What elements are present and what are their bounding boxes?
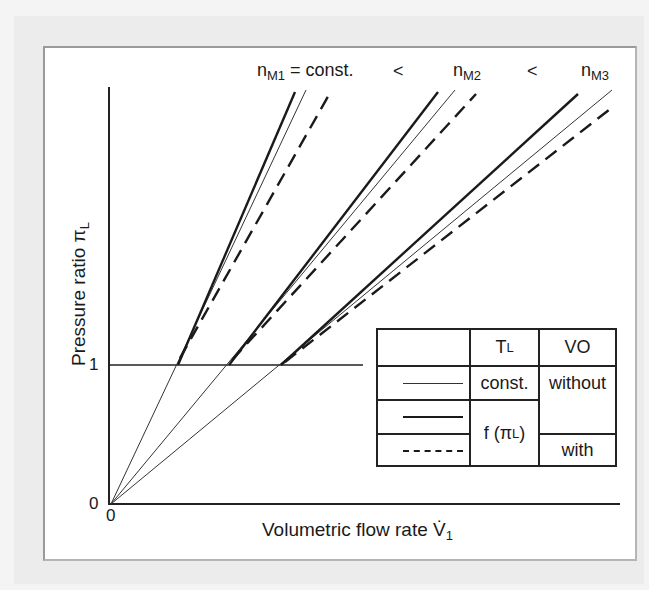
tl-subscript: L — [506, 340, 513, 355]
curve-nM3-dashed — [285, 106, 614, 362]
tl-func-close: ) — [519, 423, 525, 444]
label-nM1: nM1 = const. — [257, 60, 354, 83]
curve-nM1-thin — [111, 90, 306, 504]
curve-nM1-thick — [178, 92, 295, 365]
nM1-const-text: = const. — [285, 60, 354, 80]
nM1-subscript: M1 — [267, 68, 285, 83]
tl-text: T — [495, 337, 506, 358]
label-nM3: nM3 — [581, 60, 609, 83]
legend-sample-thick-line — [403, 416, 463, 418]
legend-header-tl: TL — [471, 330, 538, 365]
y-axis-label: Pressure ratio πL — [68, 222, 92, 366]
tl-func-subscript: L — [512, 426, 519, 441]
curve-nM1-dashed — [180, 93, 330, 358]
legend-header-vo: VO — [540, 330, 615, 365]
y-axis-label-text: Pressure ratio π — [68, 229, 89, 366]
x-axis-label: Volumetric flow rate V̇1 — [262, 519, 453, 543]
curve-nM3-thick — [281, 94, 578, 365]
tl-func-text: f (π — [484, 423, 512, 444]
legend-row-divider-2 — [378, 433, 470, 435]
x-axis-label-subscript: 1 — [446, 528, 453, 543]
nM2-subscript: M2 — [463, 68, 481, 83]
curve-nM2-dashed — [232, 94, 476, 360]
less-than-2: < — [527, 61, 538, 82]
curve-nM2-thick — [229, 92, 438, 365]
legend-table: TL VO const. f (πL) without with — [376, 328, 617, 467]
legend-vo-without: without — [540, 367, 615, 399]
n-prefix: n — [581, 60, 591, 80]
label-nM2: nM2 — [453, 60, 481, 83]
legend-sample-dashed-line — [403, 450, 463, 452]
y-tick-0: 0 — [89, 494, 98, 514]
legend-sample-thin-line — [403, 383, 463, 384]
legend-tl-const: const. — [471, 367, 538, 399]
x-tick-0: 0 — [106, 506, 115, 526]
y-axis-label-subscript: L — [77, 222, 92, 229]
n-prefix: n — [257, 60, 267, 80]
legend-tl-function: f (πL) — [471, 401, 538, 465]
legend-vo-with: with — [540, 435, 615, 465]
nM3-subscript: M3 — [591, 68, 609, 83]
n-prefix: n — [453, 60, 463, 80]
x-axis-label-text: Volumetric flow rate V̇ — [262, 519, 446, 540]
less-than-1: < — [393, 61, 404, 82]
y-tick-1: 1 — [89, 355, 98, 375]
